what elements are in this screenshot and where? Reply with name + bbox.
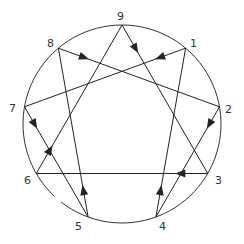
- enneagram-diagram: 9 1 2 3 4 5 6 7 8: [0, 0, 244, 244]
- label-2: 2: [225, 103, 232, 116]
- outer-circle: [23, 25, 221, 223]
- arrowhead-9-to-3: [130, 42, 138, 53]
- arrowhead-5-to-8: [80, 185, 88, 196]
- arrowhead-3-to-6: [175, 170, 185, 178]
- circle-outline: [23, 25, 221, 223]
- arrowhead-4-to-1: [156, 185, 164, 196]
- arrowhead-7-to-5: [29, 118, 37, 129]
- label-7: 7: [9, 102, 16, 115]
- label-6: 6: [24, 174, 31, 187]
- label-1: 1: [190, 37, 197, 50]
- edges: [25, 25, 220, 217]
- arrowhead-2-to-4: [207, 118, 215, 129]
- label-4: 4: [159, 220, 166, 233]
- label-3: 3: [215, 174, 222, 187]
- label-8: 8: [47, 37, 54, 50]
- label-9: 9: [117, 10, 124, 23]
- point-labels: 9 1 2 3 4 5 6 7 8: [9, 10, 232, 233]
- arrowhead-8-to-2: [78, 52, 89, 60]
- arrowhead-1-to-7: [155, 52, 166, 60]
- arrows: [29, 42, 216, 195]
- label-5: 5: [75, 220, 82, 233]
